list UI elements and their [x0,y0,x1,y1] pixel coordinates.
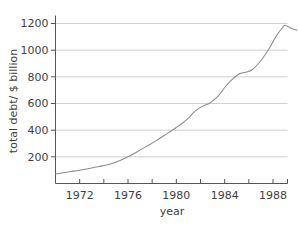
line-chart: 20040060080010001200 1972197619801984198… [0,0,299,228]
x-tick-label-1984: 1984 [211,189,239,202]
x-tick-label-1972: 1972 [66,189,94,202]
y-tick-label-400: 400 [28,124,49,137]
y-tick-label-1200: 1200 [21,17,49,30]
x-tick-label-1988: 1988 [259,189,287,202]
y-tick-label-800: 800 [28,71,49,84]
plot-background [0,0,299,228]
chart-figure: 20040060080010001200 1972197619801984198… [0,0,299,228]
x-axis-title: year [160,205,185,218]
x-tick-label-1976: 1976 [114,189,142,202]
y-axis-title: total debt/ $ billion [7,49,20,153]
x-tick-label-1980: 1980 [162,189,190,202]
y-tick-label-600: 600 [28,97,49,110]
y-tick-label-200: 200 [28,151,49,164]
y-tick-label-1000: 1000 [21,44,49,57]
